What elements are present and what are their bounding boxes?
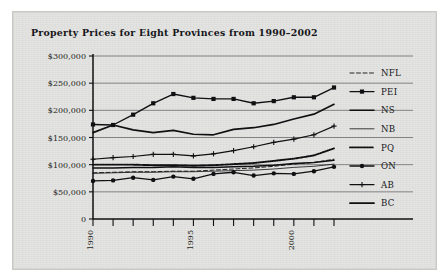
legend: NFLPEINSNBPQONABBC [350, 68, 401, 208]
x-axis-tick-label: 2000 [287, 230, 296, 250]
data-point-marker [272, 171, 276, 175]
series-bc [93, 104, 334, 134]
legend-label-on: ON [381, 161, 396, 171]
y-axis-tick-label: $250,000 [48, 79, 86, 88]
data-point-marker [91, 122, 95, 126]
data-point-marker [360, 90, 364, 94]
legend-label-nfl: NFL [381, 68, 401, 78]
data-point-marker [360, 164, 364, 168]
x-axis-ticks: 199019952000 [86, 219, 334, 250]
legend-item-on[interactable]: ON [350, 161, 396, 171]
gridlines: 0$50,000$100,000$150,000$200,000$250,000… [48, 52, 413, 224]
data-point-marker [312, 95, 316, 99]
data-point-marker [191, 177, 195, 181]
y-axis-tick-label: $300,000 [48, 52, 86, 61]
x-axis-tick-label: 1990 [86, 230, 95, 250]
data-point-marker [151, 178, 155, 182]
series-line-pei [93, 88, 334, 125]
data-point-marker [91, 179, 95, 183]
series-line-bc [93, 104, 334, 134]
data-point-marker [332, 165, 336, 169]
data-point-marker [171, 92, 175, 96]
legend-item-pei[interactable]: PEI [350, 87, 397, 97]
legend-item-ab[interactable]: AB [350, 180, 394, 190]
series-pei [91, 85, 336, 127]
data-point-marker [231, 97, 235, 101]
data-point-marker [191, 96, 195, 100]
legend-item-pq[interactable]: PQ [350, 143, 394, 153]
data-point-marker [211, 97, 215, 101]
y-axis-tick-label: $50,000 [53, 188, 86, 197]
data-point-marker [211, 172, 215, 176]
legend-label-ab: AB [380, 180, 394, 190]
legend-item-ns[interactable]: NS [350, 105, 395, 115]
legend-item-bc[interactable]: BC [350, 198, 395, 208]
data-point-marker [111, 178, 115, 182]
data-point-marker [292, 95, 296, 99]
legend-label-ns: NS [381, 105, 395, 115]
data-point-marker [151, 101, 155, 105]
data-point-marker [131, 113, 135, 117]
legend-label-pei: PEI [381, 87, 397, 97]
legend-label-bc: BC [381, 198, 395, 208]
legend-label-pq: PQ [381, 143, 394, 153]
data-point-marker [292, 172, 296, 176]
data-point-marker [332, 85, 336, 89]
screenshot-root: Property Prices for Eight Provinces from… [0, 0, 447, 280]
legend-item-nb[interactable]: NB [350, 124, 395, 134]
plot-area: 0$50,000$100,000$150,000$200,000$250,000… [13, 12, 436, 269]
data-point-marker [272, 99, 276, 103]
data-point-marker [171, 174, 175, 178]
y-axis-tick-label: $150,000 [48, 134, 86, 143]
legend-label-nb: NB [381, 124, 395, 134]
data-point-marker [252, 101, 256, 105]
y-axis-tick-label: 0 [81, 215, 86, 224]
data-point-marker [312, 169, 316, 173]
x-axis-tick-label: 1995 [186, 230, 195, 250]
legend-item-nfl[interactable]: NFL [350, 68, 401, 78]
y-axis-tick-label: $100,000 [48, 161, 86, 170]
line-chart-svg: 0$50,000$100,000$150,000$200,000$250,000… [13, 12, 436, 269]
series-group [90, 85, 336, 183]
y-axis-tick-label: $200,000 [48, 106, 86, 115]
data-point-marker [251, 173, 255, 177]
data-point-marker [131, 176, 135, 180]
figure-panel: Property Prices for Eight Provinces from… [12, 11, 437, 270]
data-point-marker [231, 170, 235, 174]
